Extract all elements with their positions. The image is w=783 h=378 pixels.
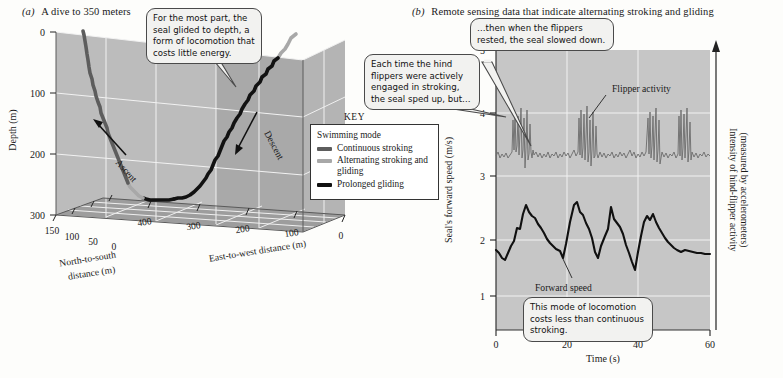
track-bottom-gliding [143,198,174,200]
y-tick-3: 3 [480,171,485,182]
panel-b-callout-bottom: This mode of locomotion costs less than … [523,297,653,342]
ew-axis-label: East-to-west distance (m) [208,237,307,264]
depth-tick-0: 0 [40,27,45,38]
key-swatch-gliding-icon [317,183,332,187]
depth-axis-label: Depth (m) [7,109,19,150]
depth-tick-100: 100 [30,88,45,99]
key-label-alternating: Alternating stroking and gliding [337,155,432,177]
key-item-continuous-stroking: Continuous stroking [317,143,432,154]
ns-tick-150: 150 [45,225,60,236]
panel-b-callout-left: Each time the hind flippers were activel… [364,54,480,110]
y-axis-label-right-line1: Intensity of hind-flipper activity [728,128,739,252]
ew-tick-400: 400 [136,215,152,228]
key-swatch-continuous-icon [317,147,332,151]
y-tick-marks [490,50,496,296]
depth-tick-300: 300 [30,210,45,221]
panel-a-callout: For the most part, the seal glided to de… [146,8,262,64]
key-lead-label: Swimming mode [317,130,432,140]
panel-a-dive-profile: (a) A dive to 350 meters [0,0,400,378]
ns-axis-label-line2: distance (m) [67,263,116,282]
right-axis-arrow [712,40,720,330]
y-tick-1: 1 [480,291,485,302]
x-tick-0: 0 [494,339,499,350]
key-box: Swimming mode Continuous stroking Altern… [310,124,439,200]
flipper-activity-label: Flipper activity [612,83,671,94]
ew-tick-200: 200 [234,222,250,235]
panel-b-remote-sensing: (b) Remote sensing data that indicate al… [400,0,783,378]
x-tick-60: 60 [705,339,715,350]
plot-background [496,50,710,330]
y-axis-label-right-line2: (measured by accelerometers) [738,132,750,247]
forward-speed-label: Forward speed [535,282,592,293]
key-swatch-alternating-icon [317,159,332,163]
ew-tick-0: 0 [339,230,344,241]
ew-tick-100: 100 [283,226,299,239]
panel-b-callout-top: …then when the flippers rested, the seal… [470,18,614,51]
key-item-prolonged-gliding: Prolonged gliding [317,179,432,190]
key-label-gliding: Prolonged gliding [337,179,404,190]
depth-tick-marks [50,32,56,215]
ns-tick-100: 100 [65,231,80,242]
ew-tick-300: 300 [185,219,201,232]
x-axis-label: Time (s) [586,353,620,365]
depth-tick-200: 200 [30,149,45,160]
y-tick-2: 2 [480,235,485,246]
track-descent-alternating [278,34,296,58]
key-item-alternating: Alternating stroking and gliding [317,155,432,177]
key-header: KEY [344,112,365,122]
key-label-continuous: Continuous stroking [337,143,413,154]
y-axis-label-left: Seal's forward speed (m/s) [443,137,455,243]
ns-tick-50: 50 [88,236,98,247]
